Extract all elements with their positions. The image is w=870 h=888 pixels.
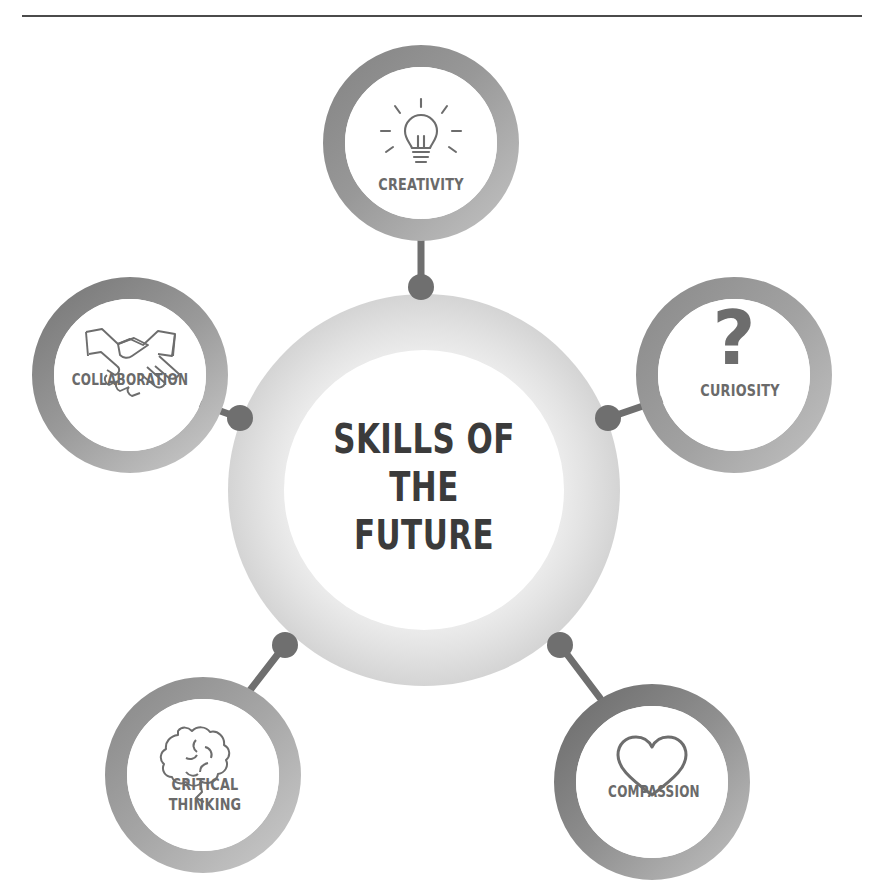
hub-title-line2: THE: [312, 463, 536, 511]
connector-dot-critical-thinking: [272, 632, 298, 658]
node-creativity[interactable]: [334, 56, 508, 230]
node-curiosity[interactable]: ?: [647, 288, 821, 462]
connector-dot-creativity: [408, 274, 434, 300]
node-label-creativity: CREATIVITY: [341, 175, 501, 195]
connector-dot-collaboration: [227, 405, 253, 431]
question-mark-icon: ?: [713, 295, 756, 381]
node-label-compassion: COMPASSION: [572, 783, 737, 801]
hub-title-line3: FUTURE: [312, 511, 536, 559]
node-label-collaboration: COLLABORATION: [50, 371, 210, 389]
node-face-compassion: [576, 706, 728, 858]
node-compassion[interactable]: [565, 695, 739, 869]
connector-dot-compassion: [547, 632, 573, 658]
node-label-curiosity: CURIOSITY: [660, 381, 820, 401]
connector-dot-curiosity: [595, 405, 621, 431]
hub-title: SKILLS OF THE FUTURE: [312, 415, 536, 559]
hub-title-line1: SKILLS OF: [312, 415, 536, 463]
skills-of-the-future-diagram: ?: [0, 0, 870, 888]
svg-text:?: ?: [713, 295, 756, 381]
node-face-creativity: [345, 67, 497, 219]
node-label-critical-thinking: CRITICAL THINKING: [123, 775, 288, 814]
